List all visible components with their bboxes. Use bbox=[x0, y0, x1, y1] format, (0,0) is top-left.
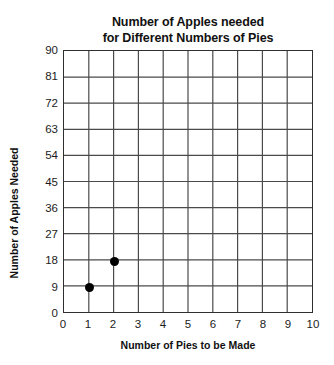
y-tick-label: 81 bbox=[18, 70, 58, 82]
y-tick-label: 63 bbox=[18, 123, 58, 135]
data-points-layer bbox=[64, 51, 312, 312]
x-axis-title: Number of Pies to be Made bbox=[63, 339, 313, 351]
data-point bbox=[85, 283, 94, 292]
data-point bbox=[110, 257, 119, 266]
y-tick-label: 27 bbox=[18, 228, 58, 240]
y-tick-label: 18 bbox=[18, 254, 58, 266]
y-tick-label: 90 bbox=[18, 44, 58, 56]
chart-title-line-1: Number of Apples needed bbox=[63, 14, 313, 30]
x-tick-label: 10 bbox=[298, 318, 328, 330]
plot-area bbox=[63, 50, 313, 313]
y-tick-label: 54 bbox=[18, 149, 58, 161]
y-tick-label: 36 bbox=[18, 202, 58, 214]
y-tick-label: 9 bbox=[18, 281, 58, 293]
chart-title: Number of Apples needed for Different Nu… bbox=[63, 14, 313, 46]
y-tick-label: 72 bbox=[18, 97, 58, 109]
chart-title-line-2: for Different Numbers of Pies bbox=[63, 30, 313, 46]
chart-figure: Number of Apples needed for Different Nu… bbox=[0, 0, 334, 365]
y-tick-label: 45 bbox=[18, 176, 58, 188]
